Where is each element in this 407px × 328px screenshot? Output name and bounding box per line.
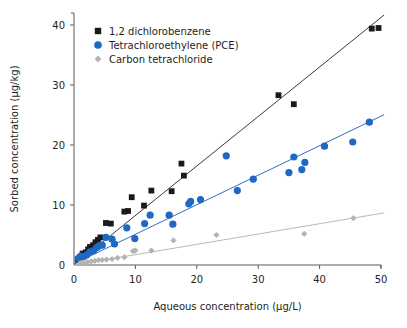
point-diamond <box>350 215 356 221</box>
point-circle <box>187 198 194 205</box>
point-circle <box>234 187 241 194</box>
point-circle <box>169 221 176 228</box>
point-circle <box>366 119 373 126</box>
point-square <box>276 92 282 98</box>
point-square <box>169 188 175 194</box>
y-tick-label: 40 <box>52 20 65 31</box>
point-circle <box>166 212 173 219</box>
x-tick-label: 50 <box>375 274 388 285</box>
x-tick-label: 30 <box>252 274 265 285</box>
x-axis-title: Aqueous concentration (µg/L) <box>153 301 301 312</box>
legend-label: Carbon tetrachloride <box>109 54 213 65</box>
point-diamond <box>301 231 307 237</box>
x-tick-label: 0 <box>71 274 77 285</box>
trendline-diamond <box>74 213 384 265</box>
x-tick-label: 20 <box>190 274 203 285</box>
scatter-plot: 01020304001020304050 1,2 dichlorobenzene… <box>0 0 407 328</box>
point-diamond <box>109 256 115 262</box>
point-square <box>291 101 297 107</box>
point-diamond <box>103 257 109 263</box>
point-square <box>141 203 147 209</box>
legend-marker-square <box>95 28 101 34</box>
point-square <box>108 221 114 227</box>
point-diamond <box>121 254 127 260</box>
legend-label: Tetrachloroethylene (PCE) <box>108 40 239 51</box>
point-circle <box>285 169 292 176</box>
x-tick-label: 10 <box>129 274 142 285</box>
y-tick-label: 10 <box>52 200 65 211</box>
trendline-square <box>74 15 384 265</box>
point-diamond <box>213 232 219 238</box>
point-circle <box>298 166 305 173</box>
point-circle <box>123 224 130 231</box>
trendlines <box>74 15 384 265</box>
point-square <box>129 194 135 200</box>
point-circle <box>349 138 356 145</box>
point-square <box>125 208 131 214</box>
point-diamond <box>170 237 176 243</box>
chart-figure: 01020304001020304050 1,2 dichlorobenzene… <box>0 0 407 328</box>
y-tick-label: 20 <box>52 140 65 151</box>
point-circle <box>290 153 297 160</box>
point-circle <box>301 159 308 166</box>
point-circle <box>141 220 148 227</box>
y-axis-title: Sorbed concentration (µg/kg) <box>9 65 20 212</box>
point-circle <box>250 176 257 183</box>
point-circle <box>197 196 204 203</box>
point-square <box>369 26 375 32</box>
y-tick-label: 0 <box>59 260 65 271</box>
point-circle <box>223 152 230 159</box>
point-circle <box>102 234 109 241</box>
point-circle <box>147 212 154 219</box>
point-diamond <box>114 255 120 261</box>
y-tick-label: 30 <box>52 80 65 91</box>
trendline-circle <box>74 115 384 264</box>
point-square <box>179 161 185 167</box>
legend-label: 1,2 dichlorobenzene <box>109 26 211 37</box>
legend-marker-diamond <box>95 56 102 63</box>
point-square <box>148 188 154 194</box>
point-circle <box>131 235 138 242</box>
x-tick-label: 40 <box>313 274 326 285</box>
point-square <box>376 25 382 31</box>
point-circle <box>99 242 106 249</box>
point-circle <box>321 143 328 150</box>
legend-marker-circle <box>94 41 102 49</box>
point-square <box>181 173 187 179</box>
chart-legend: 1,2 dichlorobenzeneTetrachloroethylene (… <box>94 26 238 65</box>
point-circle <box>111 240 118 247</box>
